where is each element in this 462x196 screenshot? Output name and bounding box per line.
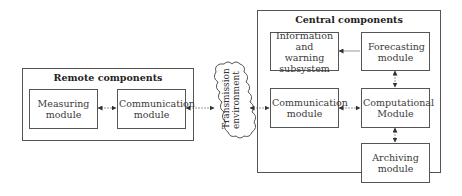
measuring-module: Measuring module [29, 89, 98, 129]
archiving-module-label: Archiving module [371, 152, 421, 174]
information-warning-label: Information and warning subsystem [276, 30, 334, 74]
remote-components-title: Remote components [23, 72, 193, 83]
transmission-label-line1: Transmission [221, 73, 231, 129]
forecasting-module-label: Forecasting module [368, 41, 423, 63]
transmission-label-line2: environment [231, 73, 241, 129]
remote-communication-module: Communication module [117, 89, 186, 129]
computational-module-label: Computational Module [363, 97, 428, 119]
forecasting-module: Forecasting module [361, 32, 430, 71]
transmission-environment: Transmission environment [204, 90, 260, 112]
remote-communication-module-label: Communication module [119, 98, 184, 120]
central-communication-module-label: Communication module [272, 97, 337, 119]
information-warning-subsystem: Information and warning subsystem [270, 32, 339, 71]
archiving-module: Archiving module [361, 143, 430, 183]
measuring-module-label: Measuring module [36, 98, 91, 120]
computational-module: Computational Module [361, 88, 430, 128]
central-communication-module: Communication module [270, 88, 339, 128]
central-components-title: Central components [258, 14, 440, 25]
